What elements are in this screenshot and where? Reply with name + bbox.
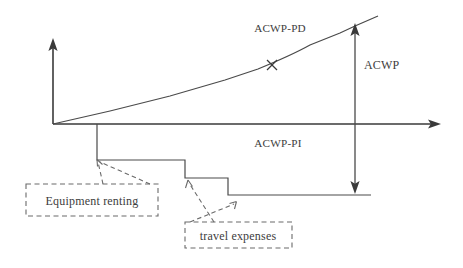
equipment-renting-label: Equipment renting bbox=[45, 194, 138, 208]
diagram-canvas: ACWP-PD ACWP-PI ACWP Equipment renting t… bbox=[0, 0, 463, 268]
acwp-pd-label: ACWP-PD bbox=[254, 22, 306, 34]
acwp-measure-label: ACWP bbox=[364, 58, 400, 72]
travel-expenses-leader-1 bbox=[189, 183, 214, 222]
acwp-measure-group bbox=[350, 23, 359, 194]
acwp-pi-label: ACWP-PI bbox=[254, 137, 301, 149]
acwp-pd-series bbox=[53, 16, 378, 124]
travel-expenses-arrow-icon-2 bbox=[230, 202, 237, 210]
equipment-renting-leader-2 bbox=[100, 162, 150, 184]
acwp-pd-curve bbox=[53, 16, 378, 124]
equipment-renting-leader-1 bbox=[98, 162, 103, 184]
acwp-cost-diagram: ACWP-PD ACWP-PI ACWP Equipment renting t… bbox=[0, 0, 463, 268]
axes-group bbox=[48, 38, 441, 129]
travel-expenses-label: travel expenses bbox=[200, 229, 277, 243]
